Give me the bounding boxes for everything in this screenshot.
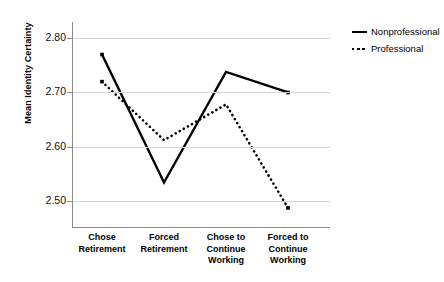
- data-point-marker: [286, 206, 290, 210]
- legend-label: Professional: [371, 43, 423, 54]
- x-tick-label: ForcedRetirement: [129, 232, 199, 255]
- x-tick-label: ChoseRetirement: [67, 232, 137, 255]
- gridline: [72, 38, 330, 39]
- line-chart-figure: Mean Identity Certainty 2.80 2.70 2.60 2…: [0, 0, 444, 282]
- gridline: [72, 201, 330, 202]
- series-line-professional: [102, 82, 288, 208]
- x-tick-label-line: Retirement: [129, 244, 199, 256]
- x-tick-label-line: Working: [191, 255, 261, 267]
- x-tick-label: Forced toContinueWorking: [253, 232, 323, 267]
- x-tick-label-line: Working: [253, 255, 323, 267]
- y-tick-label: 2.60: [28, 140, 66, 152]
- x-tick-label-line: Retirement: [67, 244, 137, 256]
- solid-line-swatch: [352, 27, 367, 37]
- data-series-layer: [72, 22, 330, 228]
- data-point-marker: [100, 53, 104, 57]
- dotted-line-swatch: [352, 44, 367, 54]
- x-axis-line: [72, 227, 330, 228]
- x-tick-label-line: Forced to: [253, 232, 323, 244]
- gridline: [72, 92, 330, 93]
- x-tick-label-line: Chose to: [191, 232, 261, 244]
- legend-entry-professional: Professional: [352, 41, 444, 56]
- x-tick-label-line: Continue: [191, 244, 261, 256]
- x-axis-tick-labels: ChoseRetirementForcedRetirementChose toC…: [72, 232, 330, 280]
- x-tick-label-line: Continue: [253, 244, 323, 256]
- x-tick-label: Chose toContinueWorking: [191, 232, 261, 267]
- x-tick-label-line: Chose: [67, 232, 137, 244]
- y-tick-label: 2.70: [28, 85, 66, 97]
- legend-label: Nonprofessional: [371, 26, 440, 37]
- y-tick-label: 2.80: [28, 31, 66, 43]
- chart-legend: Nonprofessional Professional: [352, 24, 444, 58]
- data-point-marker: [100, 80, 104, 84]
- gridline: [72, 147, 330, 148]
- legend-entry-nonprofessional: Nonprofessional: [352, 24, 444, 39]
- x-tick-label-line: Forced: [129, 232, 199, 244]
- y-axis-line: [72, 22, 73, 228]
- y-tick-label: 2.50: [28, 194, 66, 206]
- y-axis-tick-labels: 2.80 2.70 2.60 2.50: [26, 0, 66, 282]
- plot-area: [72, 22, 330, 228]
